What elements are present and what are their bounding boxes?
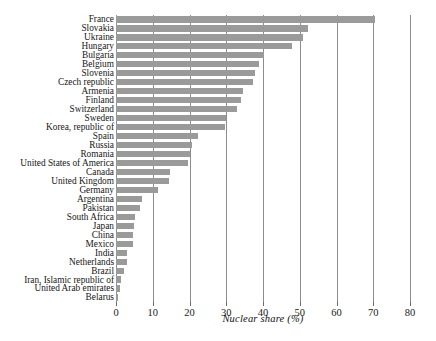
bar — [116, 16, 375, 22]
category-label: Belarus — [0, 292, 114, 302]
bar — [116, 61, 259, 67]
bar — [116, 250, 127, 256]
x-gridline — [410, 15, 411, 302]
bar — [116, 259, 127, 265]
bar-row: France — [116, 15, 410, 24]
x-tick-mark — [190, 302, 191, 306]
nuclear-share-bar-chart: 01020304050607080FranceSlovakiaUkraineHu… — [0, 0, 436, 341]
bar — [116, 133, 198, 139]
bar-row: Japan — [116, 221, 410, 230]
bar — [116, 70, 255, 76]
x-tick-mark — [337, 302, 338, 306]
bar-row: Belgium — [116, 60, 410, 69]
bar-row: Belarus — [116, 293, 410, 302]
bar — [116, 285, 120, 291]
x-tick-mark — [153, 302, 154, 306]
bar-row: Slovakia — [116, 24, 410, 33]
bar — [116, 52, 264, 58]
bar-row: Korea, republic of — [116, 123, 410, 132]
bar-row: Brazil — [116, 266, 410, 275]
bar-row: China — [116, 230, 410, 239]
x-tick-mark — [410, 302, 411, 306]
bar — [116, 97, 241, 103]
bar — [116, 43, 292, 49]
bar — [116, 294, 118, 300]
bar — [116, 142, 192, 148]
bar-row: India — [116, 248, 410, 257]
bar-row: South Africa — [116, 212, 410, 221]
bar-row: Armenia — [116, 87, 410, 96]
plot-area: 01020304050607080FranceSlovakiaUkraineHu… — [116, 15, 410, 302]
bar-row: Czech republic — [116, 78, 410, 87]
bar-row: United Kingdom — [116, 176, 410, 185]
bar-row: United Arab emirates — [116, 284, 410, 293]
x-tick-mark — [300, 302, 301, 306]
x-tick-mark — [226, 302, 227, 306]
bar — [116, 25, 308, 31]
bar-row: United States of America — [116, 159, 410, 168]
bar-row: Russia — [116, 141, 410, 150]
bar — [116, 88, 243, 94]
bar-row: Ukraine — [116, 33, 410, 42]
bar — [116, 241, 133, 247]
x-tick-mark — [263, 302, 264, 306]
bar — [116, 79, 253, 85]
bar-row: Pakistan — [116, 203, 410, 212]
bar — [116, 178, 169, 184]
bar — [116, 276, 121, 282]
bar — [116, 214, 135, 220]
bar-row: Romania — [116, 150, 410, 159]
bar-row: Switzerland — [116, 105, 410, 114]
bar — [116, 232, 133, 238]
x-tick-mark — [116, 302, 117, 306]
bar-row: Argentina — [116, 194, 410, 203]
bar-row: Hungary — [116, 42, 410, 51]
bar — [116, 205, 140, 211]
bar — [116, 124, 225, 130]
bar — [116, 187, 158, 193]
bar — [116, 223, 134, 229]
bar-row: Slovenia — [116, 69, 410, 78]
bar — [116, 196, 142, 202]
bar-row: Finland — [116, 96, 410, 105]
bar — [116, 34, 303, 40]
bar-row: Germany — [116, 185, 410, 194]
x-axis-title: Nuclear share (%) — [116, 313, 410, 324]
bar — [116, 169, 170, 175]
bar-row: Sweden — [116, 114, 410, 123]
bar-row: Spain — [116, 132, 410, 141]
x-tick-mark — [373, 302, 374, 306]
bar — [116, 160, 188, 166]
bar — [116, 115, 226, 121]
bar — [116, 106, 237, 112]
bar — [116, 151, 190, 157]
bar-row: Iran, Islamic republic of — [116, 275, 410, 284]
bar-row: Netherlands — [116, 257, 410, 266]
bar-row: Canada — [116, 167, 410, 176]
bar-row: Bulgaria — [116, 51, 410, 60]
bar — [116, 268, 124, 274]
bar-row: Mexico — [116, 239, 410, 248]
